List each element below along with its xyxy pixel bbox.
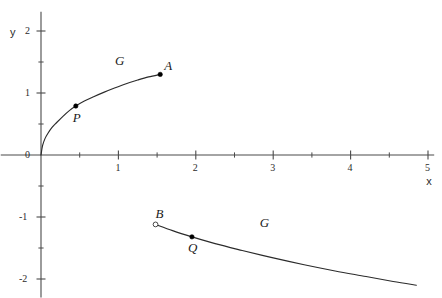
point-label-Q: Q bbox=[188, 241, 197, 254]
y-tick-label: 2 bbox=[25, 26, 30, 36]
y-tick-label: -1 bbox=[19, 212, 27, 222]
x-tick-label: 3 bbox=[270, 163, 275, 173]
point-label-P: P bbox=[73, 111, 81, 124]
point-label-A: A bbox=[164, 59, 172, 72]
point-marker-A bbox=[158, 72, 162, 76]
G-lower-label: G bbox=[260, 216, 269, 229]
y-tick-label: 1 bbox=[25, 88, 30, 98]
curve-G-upper bbox=[41, 74, 160, 155]
x-tick-label: 1 bbox=[115, 163, 120, 173]
point-marker-B bbox=[153, 222, 158, 227]
plot-canvas bbox=[0, 0, 442, 298]
x-tick-label: 5 bbox=[425, 163, 430, 173]
point-label-B: B bbox=[156, 207, 164, 220]
y-axis-label: y bbox=[10, 27, 16, 38]
point-marker-Q bbox=[190, 235, 194, 239]
y-tick-label: -2 bbox=[19, 274, 27, 284]
x-axis-label: x bbox=[426, 176, 432, 187]
x-tick-label: 4 bbox=[348, 163, 353, 173]
graph-figure: 12345210-1-2yxGGAPBQ bbox=[0, 0, 442, 298]
x-tick-label: 2 bbox=[193, 163, 198, 173]
G-upper-label: G bbox=[115, 54, 124, 67]
y-tick-label-origin: 0 bbox=[25, 150, 30, 160]
point-marker-P bbox=[74, 104, 78, 108]
